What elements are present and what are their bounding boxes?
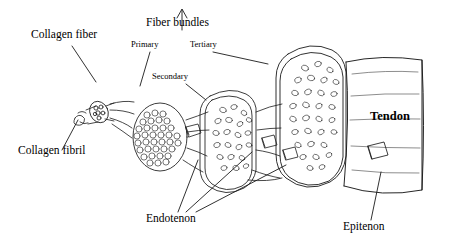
label-collagen-fiber: Collagen fiber [31,28,97,41]
leader-tertiary [213,52,268,64]
leader-endotenon [178,152,286,212]
label-secondary: Secondary [152,72,188,81]
leader-secondary [186,84,206,100]
label-epitenon: Epitenon [343,220,385,233]
primary-bundle-shape [133,103,187,171]
collagen-fiber-shape [86,98,114,126]
secondary-bundle-shape [200,90,256,192]
label-tertiary: Tertiary [190,40,217,49]
leader-primary [140,52,150,86]
leader-collagen-fiber [72,46,96,82]
endotenon-flap-2 [262,135,277,148]
epitenon-flap [368,142,388,159]
tendon-structure-figure: Collagen fiber Collagen fibril Fiber bun… [0,0,466,252]
tendon-body-shape [344,57,424,193]
fiber-connector-strands [110,101,134,138]
label-endotenon: Endotenon [146,212,196,225]
leader-epitenon [371,172,381,220]
label-collagen-fibril: Collagen fibril [18,144,85,157]
endotenon-flap-3 [283,147,298,160]
secondary-tertiary-strands [248,104,282,181]
label-tendon: Tendon [370,110,410,124]
label-fiber-bundles: Fiber bundles [146,16,209,29]
label-primary: Primary [131,40,158,49]
tertiary-bundle-shape [276,46,346,187]
